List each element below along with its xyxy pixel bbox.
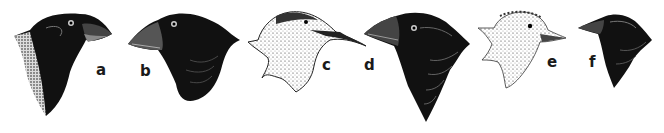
label-e: e — [547, 55, 557, 70]
finch-head-d — [364, 13, 470, 122]
label-c: c — [322, 58, 331, 73]
finch-head-c — [248, 12, 366, 92]
label-d: d — [364, 58, 375, 73]
label-b: b — [140, 64, 151, 79]
finch-head-e — [478, 12, 566, 88]
finch-head-b — [128, 13, 240, 101]
label-f: f — [589, 55, 596, 70]
finch-head-f — [578, 14, 652, 88]
label-a: a — [96, 63, 106, 78]
finch-heads-plate: a b c d e f — [0, 0, 664, 133]
